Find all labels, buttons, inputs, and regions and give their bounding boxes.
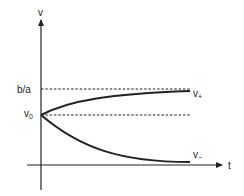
x-axis-label: t [228, 160, 231, 171]
v-plus-label: v+ [193, 88, 202, 100]
v-minus-curve [41, 115, 190, 162]
v0-label: v0 [24, 108, 33, 120]
diagram-canvas: v t b/a v0 v+ v− [0, 0, 244, 196]
y-axis-label: v [38, 7, 43, 18]
v-minus-label: v− [193, 149, 202, 161]
b-over-a-label: b/a [17, 84, 31, 95]
v-plus-curve [41, 91, 190, 115]
